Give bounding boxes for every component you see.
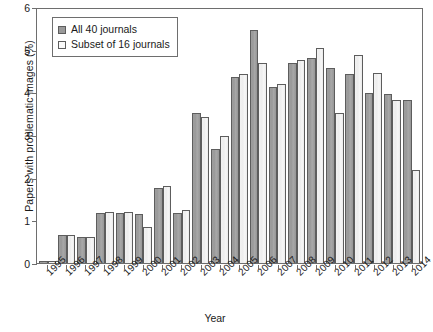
y-tick-label: 1	[0, 215, 36, 227]
bar-group	[306, 9, 325, 263]
bar	[182, 210, 191, 263]
bar	[105, 212, 114, 263]
bar	[211, 149, 220, 263]
bar	[288, 63, 297, 263]
bar	[403, 100, 412, 263]
bar-group	[268, 9, 287, 263]
bar	[192, 113, 201, 263]
bar	[124, 212, 133, 263]
bar	[307, 58, 316, 263]
bar	[239, 74, 248, 263]
gray-swatch-icon	[58, 26, 66, 34]
bar	[154, 188, 163, 263]
y-tick-label: 3	[0, 130, 36, 142]
bar	[365, 93, 374, 263]
bar	[258, 63, 267, 263]
legend-label-subset-16-journals: Subset of 16 journals	[71, 37, 170, 52]
bar	[384, 94, 393, 263]
bar	[201, 117, 210, 263]
y-tick-label: 6	[0, 2, 36, 14]
legend-label-all-40-journals: All 40 journals	[71, 22, 137, 37]
bar-group	[383, 9, 402, 263]
bar	[269, 87, 278, 263]
bar	[297, 60, 306, 263]
y-tick-label: 0	[0, 258, 36, 270]
y-axis-title: Papers with problematic images (%)	[23, 36, 35, 216]
x-axis-title: Year	[0, 312, 430, 324]
bar	[326, 68, 335, 263]
bar-group	[210, 9, 229, 263]
bar	[316, 48, 325, 263]
y-tick-mark	[32, 264, 37, 265]
bar-group	[249, 9, 268, 263]
y-tick-label: 4	[0, 87, 36, 99]
bar	[250, 30, 259, 263]
bar-group	[325, 9, 344, 263]
y-tick-label: 5	[0, 45, 36, 57]
bar	[354, 55, 363, 263]
y-tick-label: 2	[0, 173, 36, 185]
bar	[220, 136, 229, 263]
bar	[277, 84, 286, 263]
white-swatch-icon	[58, 41, 66, 49]
bar	[163, 186, 172, 263]
bar-group	[402, 9, 421, 263]
bar	[39, 261, 48, 263]
legend-item-subset-16-journals: Subset of 16 journals	[58, 37, 170, 52]
bar-group	[287, 9, 306, 263]
bar-group	[230, 9, 249, 263]
bar	[373, 73, 382, 263]
legend-item-all-40-journals: All 40 journals	[58, 22, 170, 37]
bar	[335, 113, 344, 263]
bar	[392, 100, 401, 263]
bar-group	[191, 9, 210, 263]
bar-group	[345, 9, 364, 263]
bar	[412, 170, 421, 263]
bar	[231, 77, 240, 263]
bar	[345, 74, 354, 263]
chart-legend: All 40 journals Subset of 16 journals	[52, 17, 178, 57]
bar-group	[364, 9, 383, 263]
